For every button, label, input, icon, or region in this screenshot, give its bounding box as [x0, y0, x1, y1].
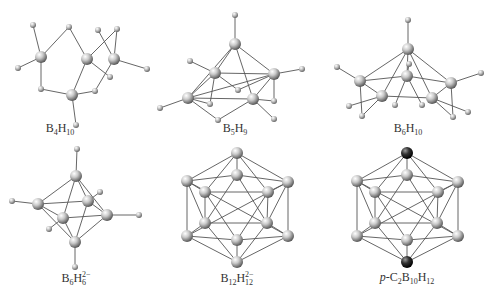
boron-atom [401, 169, 413, 181]
boron-atom [282, 230, 294, 242]
bond [38, 176, 76, 204]
hydrogen-atom [136, 212, 142, 218]
bond [357, 236, 407, 262]
bond [188, 98, 253, 99]
hydrogen-atom [392, 102, 398, 108]
bond [63, 176, 76, 218]
label-b5h9: B5H9 [223, 122, 248, 137]
hydrogen-atom [232, 12, 238, 18]
boron-atom [369, 186, 381, 198]
boron-atom [426, 92, 438, 104]
boron-atom [268, 68, 280, 80]
hydrogen-atom [92, 88, 98, 94]
bond [41, 27, 69, 57]
boron-atom [262, 186, 274, 198]
bond [360, 49, 408, 81]
boron-atom [32, 198, 44, 210]
boron-atom [354, 75, 366, 87]
hydrogen-atom [478, 70, 484, 76]
hydrogen-atom [72, 264, 78, 270]
hydrogen-atom [299, 66, 305, 72]
hydrogen-atom [95, 27, 101, 33]
boron-atom [261, 217, 273, 229]
hydrogen-atom [46, 226, 52, 232]
hydrogen-atom [38, 86, 44, 92]
bond [187, 236, 237, 262]
boron-atom [101, 209, 113, 221]
molecule-b5h9 [157, 12, 305, 123]
boron-atom [231, 256, 243, 268]
boron-atom [247, 93, 259, 105]
boron-atom [351, 175, 363, 187]
boron-atom [376, 90, 388, 102]
carbon-atom [401, 147, 413, 159]
molecule-b12h12-dianion [181, 147, 294, 268]
bond [215, 73, 274, 74]
hydrogen-atom [114, 26, 120, 32]
bond [407, 175, 437, 223]
bond [382, 96, 432, 98]
label-b12h12-dianion: B12H2−12 [220, 271, 253, 287]
bond [237, 236, 288, 262]
hydrogen-atom [334, 64, 340, 70]
hydrogen-atom [207, 101, 213, 107]
bond [218, 99, 253, 120]
hydrogen-atom [406, 61, 412, 67]
boron-atom [57, 212, 69, 224]
bond [237, 175, 288, 182]
bond [407, 175, 458, 182]
bond [237, 153, 288, 182]
boron-atom [231, 234, 243, 246]
hydrogen-atom [450, 114, 456, 120]
boron-atom [282, 176, 294, 188]
hydrogen-atom [30, 22, 36, 28]
bond [38, 201, 88, 204]
bond [357, 175, 407, 181]
label-b6h6-dianion: B6H2−6 [61, 271, 90, 287]
boron-atom [81, 53, 93, 65]
hydrogen-atom [187, 58, 193, 64]
boron-atom [369, 217, 381, 229]
borane-structures-figure [0, 0, 490, 291]
hydrogen-atom [157, 105, 163, 111]
boron-atom [70, 170, 82, 182]
boron-atom [199, 217, 211, 229]
boron-atom [231, 147, 243, 159]
hydrogen-atom [271, 116, 277, 122]
bond [75, 201, 88, 242]
boron-atom [181, 175, 193, 187]
molecule-b6h6-dianion [9, 146, 142, 270]
molecule-p-c2b10h12 [351, 147, 464, 268]
hydrogen-atom [74, 146, 80, 152]
hydrogen-atom [346, 103, 352, 109]
bond [38, 204, 75, 242]
boron-atom [35, 51, 47, 63]
boron-atom [445, 77, 457, 89]
boron-atom [69, 236, 81, 248]
bond [357, 153, 407, 181]
boron-atom [231, 169, 243, 181]
bond [235, 44, 274, 74]
bond [407, 153, 458, 182]
boron-atom [108, 53, 120, 65]
boron-atom [209, 67, 221, 79]
hydrogen-atom [465, 109, 471, 115]
hydrogen-atom [215, 117, 221, 123]
bond [76, 176, 107, 215]
boron-atom [452, 176, 464, 188]
boron-atom [66, 89, 78, 101]
bond [408, 49, 451, 83]
bond [187, 153, 237, 181]
boron-atom [199, 186, 211, 198]
bond [63, 215, 107, 218]
label-b6h10: B6H10 [394, 122, 423, 137]
hydrogen-atom [359, 113, 365, 119]
hydrogen-atom [405, 17, 411, 23]
bond [187, 175, 237, 181]
boron-atom [432, 186, 444, 198]
molecule-b6h10 [334, 17, 484, 120]
hydrogen-atom [107, 74, 113, 80]
hydrogen-atom [15, 65, 21, 71]
hydrogen-atom [144, 66, 150, 72]
boron-atom [182, 92, 194, 104]
